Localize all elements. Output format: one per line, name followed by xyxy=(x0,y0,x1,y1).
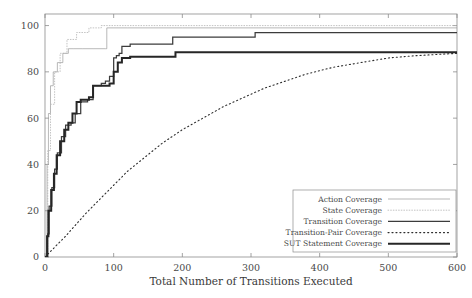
legend-label-4: SUT Statement Coverage xyxy=(284,239,383,248)
y-tick-label: 60 xyxy=(27,113,39,124)
x-tick-label: 400 xyxy=(311,262,329,273)
x-axis-title: Total Number of Transitions Executed xyxy=(149,275,352,287)
x-tick-label: 200 xyxy=(173,262,191,273)
y-tick-label: 0 xyxy=(33,251,39,262)
coverage-line-chart: 0100200300400500600 020406080100 Action … xyxy=(0,0,472,298)
x-tick-label: 100 xyxy=(105,262,123,273)
legend-label-0: Action Coverage xyxy=(317,195,382,204)
x-tick-label: 300 xyxy=(242,262,260,273)
x-tick-label: 500 xyxy=(379,262,397,273)
chart-figure: 0100200300400500600 020406080100 Action … xyxy=(0,0,472,298)
chart-legend: Action CoverageState CoverageTransition … xyxy=(284,190,456,252)
legend-label-1: State Coverage xyxy=(323,206,383,215)
y-tick-label: 100 xyxy=(21,20,39,31)
y-tick-label: 40 xyxy=(27,159,39,170)
x-tick-label: 0 xyxy=(42,262,48,273)
legend-label-3: Transition-Pair Coverage xyxy=(286,228,383,237)
y-tick-label: 80 xyxy=(27,66,39,77)
y-tick-label: 20 xyxy=(27,205,39,216)
x-tick-label: 600 xyxy=(448,262,466,273)
legend-label-2: Transition Coverage xyxy=(304,217,383,226)
